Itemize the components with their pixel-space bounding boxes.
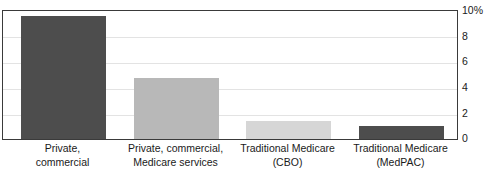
- bar: [359, 126, 444, 139]
- bar: [134, 78, 219, 139]
- y-axis: 10%86420: [462, 0, 490, 152]
- bar: [246, 121, 331, 139]
- bar-chart-figure: 10%86420 Private,commercialPrivate, comm…: [0, 0, 490, 173]
- y-axis-tick-label: 10%: [462, 5, 483, 16]
- x-axis-category-label: Traditional Medicare(MedPAC): [334, 142, 467, 169]
- x-axis-category-label-line: Traditional Medicare: [334, 142, 467, 156]
- x-axis-category-labels: Private,commercialPrivate, commercial,Me…: [2, 142, 458, 173]
- y-axis-tick-label: 4: [462, 82, 468, 93]
- bars-layer: [3, 11, 457, 139]
- x-axis-category-label-line: (MedPAC): [334, 156, 467, 170]
- plot-area: [2, 10, 458, 140]
- y-axis-tick-label: 6: [462, 56, 468, 67]
- cut-off-title: [0, 0, 490, 9]
- bar: [21, 16, 106, 140]
- y-axis-tick-label: 8: [462, 31, 468, 42]
- y-axis-tick-label: 2: [462, 108, 468, 119]
